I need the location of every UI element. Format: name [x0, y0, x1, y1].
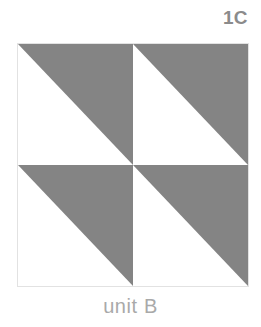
plate-label: 1C [223, 8, 248, 28]
hst-unit-bottom-right [133, 165, 248, 286]
hst-unit-top-left [18, 44, 133, 165]
quilt-block-diagram [18, 44, 248, 286]
triangle-patch-top-left-icon [18, 44, 133, 165]
hst-unit-bottom-left [18, 165, 133, 286]
triangle-patch-bottom-right-icon [133, 165, 248, 286]
hst-unit-top-right [133, 44, 248, 165]
figure-root: 1C unit B [0, 0, 261, 327]
triangle-patch-bottom-left-icon [18, 165, 133, 286]
block-caption: unit B [0, 293, 261, 319]
triangle-patch-top-right-icon [133, 44, 248, 165]
